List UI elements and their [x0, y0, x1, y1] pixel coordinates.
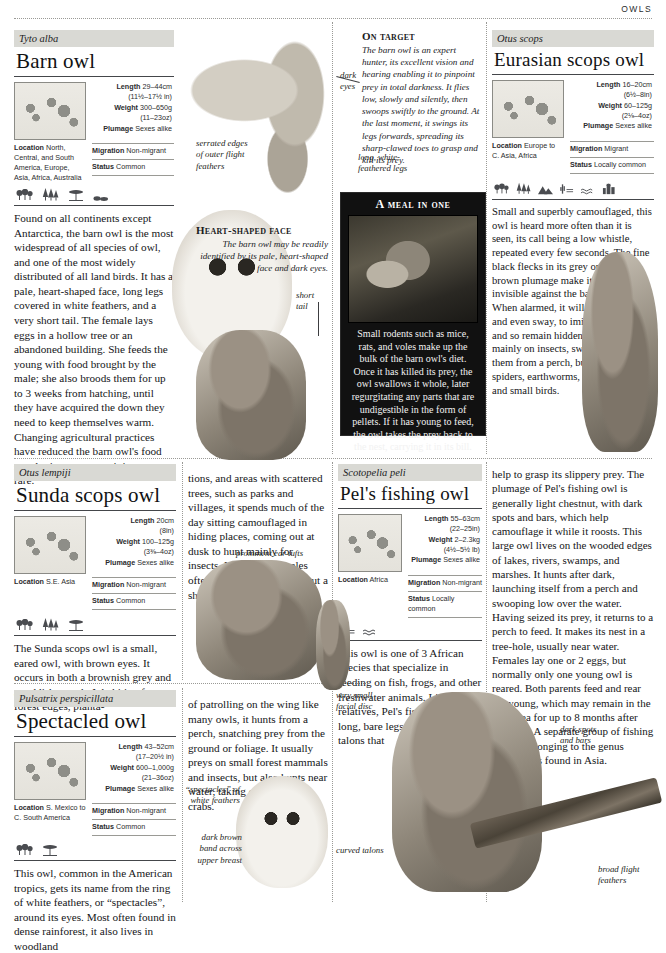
column-rule-upper-2 — [486, 22, 487, 454]
location-row: Location Europe to C. Asia, Africa Migra… — [492, 141, 654, 177]
scrub-icon — [93, 193, 109, 201]
status-row: Status Common — [92, 159, 174, 176]
column-rule-mid-2 — [332, 462, 333, 680]
location-label: Location — [338, 575, 368, 584]
distribution-map — [338, 514, 402, 572]
species-common-name: Barn owl — [14, 47, 174, 77]
status-value: Common — [116, 162, 145, 171]
desert-icon — [560, 183, 574, 195]
species-entry-eurasian-scops-owl: Otus scops Eurasian scops owl Length 16–… — [492, 30, 654, 398]
species-entry-barn-owl: Tyto alba Barn owl Length 29–44cm (11½–1… — [14, 30, 174, 488]
location-label: Location — [14, 143, 44, 152]
conifer-forest-icon — [42, 618, 59, 631]
distribution-map — [492, 80, 564, 138]
distribution-map — [14, 516, 86, 574]
savanna-icon — [68, 189, 84, 201]
callout-curved-talons: curved talons — [336, 845, 408, 856]
feature-title: On target — [362, 30, 480, 42]
status-value: Common — [116, 822, 145, 831]
callout-broad-flight-feathers: broad flight feathers — [598, 864, 656, 887]
length-value: 20cm — [156, 516, 174, 525]
migration-value: Non-migrant — [126, 146, 166, 155]
migration-row: Migration Non-migrant — [408, 575, 482, 588]
migration-label: Migration — [570, 144, 602, 153]
length-label: Length — [424, 514, 448, 523]
habitat-icon-strip — [14, 839, 176, 861]
plumage-label: Plumage — [105, 784, 135, 793]
location-row: Location North, Central, and South Ameri… — [14, 143, 174, 183]
wetland-icon — [363, 628, 378, 636]
measurements: Length 20cm (8in) Weight 100–125g (3⅜–4o… — [92, 516, 176, 574]
weight-imperial: (21–36oz) — [92, 773, 174, 783]
location-value: Africa — [370, 575, 388, 584]
migration-row: Migration Non-migrant — [92, 577, 176, 590]
perch-branch-illustration — [470, 777, 663, 849]
scientific-name: Otus lempiji — [14, 464, 176, 481]
urban-icon — [602, 183, 616, 195]
status-label: Status — [570, 160, 592, 169]
length-value: 43–52cm — [144, 742, 174, 751]
wetland-icon — [581, 187, 595, 195]
status-row: Status Common — [92, 593, 176, 610]
location-block: Location Europe to C. Asia, Africa — [492, 141, 564, 177]
broadleaf-forest-icon — [16, 619, 33, 631]
callout-spectacles-white-feathers: “spectacles” of white feathers — [176, 784, 240, 807]
plumage-value: Sexes alike — [137, 558, 174, 567]
barn-owl-flight-illustration — [176, 22, 356, 202]
weight-imperial: (3⅜–4oz) — [92, 547, 174, 557]
fact-grid: Length 16–20cm (6½–8in) Weight 60–125g (… — [492, 75, 654, 138]
migration-value: Non-migrant — [442, 578, 482, 587]
status-row: Status Locally common — [570, 157, 654, 174]
migration-label: Migration — [92, 806, 124, 815]
species-common-name: Eurasian scops owl — [492, 47, 654, 75]
length-imperial: (17–20½ in) — [92, 752, 174, 762]
location-row: Location S.E. Asia Migration Non-migrant… — [14, 577, 176, 613]
weight-label: Weight — [114, 103, 138, 112]
weight-value: 100–125g — [142, 537, 174, 546]
pels-fishing-owl-description-continued: help to grasp its slippery prey. The plu… — [492, 462, 654, 767]
status-row: Status Locally common — [408, 591, 482, 618]
location-label: Location — [14, 577, 44, 586]
callout-prominent-ear-tufts: prominent ear tufts — [236, 548, 326, 559]
length-value: 16–20cm — [622, 80, 652, 89]
feature-box-caption: Small rodents such as mice, rats, and vo… — [341, 323, 485, 460]
feature-box-photo — [348, 215, 478, 323]
plumage-label: Plumage — [105, 558, 135, 567]
scientific-name: Tyto alba — [14, 30, 174, 47]
location-block: Location North, Central, and South Ameri… — [14, 143, 86, 183]
habitat-icon-strip — [492, 177, 654, 200]
column-rule-mid-1 — [182, 462, 183, 680]
migration-value: Non-migrant — [126, 806, 166, 815]
plumage-value: Sexes alike — [135, 124, 172, 133]
species-entry-spectacled-owl: Pulsatrix perspicillata Spectacled owl L… — [14, 690, 176, 953]
status-value: Locally common — [594, 160, 646, 169]
leader-line-short-tail — [318, 302, 319, 336]
status-label: Status — [92, 822, 114, 831]
fact-grid: Length 20cm (8in) Weight 100–125g (3⅜–4o… — [14, 511, 176, 574]
species-description: Found on all continents except Antarctic… — [14, 206, 174, 488]
length-imperial: (6½–8in) — [570, 90, 652, 100]
plumage-label: Plumage — [103, 124, 133, 133]
measurements: Length 16–20cm (6½–8in) Weight 60–125g (… — [570, 80, 654, 138]
migration-row: Migration Non-migrant — [92, 143, 174, 156]
status-label: Status — [408, 594, 430, 603]
migration-label: Migration — [408, 578, 440, 587]
weight-value: 60–125g — [624, 101, 652, 110]
migration-row: Migration Non-migrant — [92, 803, 176, 816]
scientific-name: Scotopelia peli — [338, 464, 482, 481]
location-label: Location — [14, 803, 44, 812]
feature-box-a-meal-in-one: A meal in one Small rodents such as mice… — [340, 192, 486, 436]
callout-very-small-facial-disc: very small facial disc — [336, 690, 394, 713]
conifer-forest-icon — [42, 188, 59, 201]
status-value: Common — [116, 596, 145, 605]
migration-row: Migration Migrant — [570, 141, 654, 154]
callout-dark-brown-band: dark brown band across upper breast — [180, 832, 242, 866]
feature-body: The barn owl may be readily identified b… — [196, 236, 328, 275]
fact-grid: Length 55–63cm (22–25in) Weight 2–2.3kg … — [338, 509, 482, 572]
species-entry-sunda-scops-owl: Otus lempiji Sunda scops owl Length 20cm… — [14, 464, 176, 714]
distribution-map — [14, 742, 86, 800]
barn-owl-perched-illustration — [196, 330, 306, 460]
length-imperial: (11½–17½ in) — [92, 92, 172, 102]
callout-serrated-edges: serrated edges of outer flight feathers — [196, 138, 270, 172]
location-value: S.E. Asia — [46, 577, 75, 586]
